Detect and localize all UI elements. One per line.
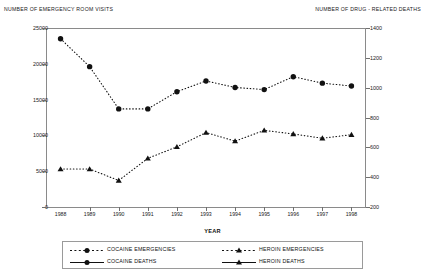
legend-marker-cocaine-emergencies: [69, 246, 105, 255]
legend-label-heroin-emergencies: HEROIN EMERGENCIES: [259, 246, 324, 252]
legend-marker-cocaine-deaths: [69, 258, 105, 267]
data-point-triangle: [174, 144, 180, 149]
data-point-circle: [87, 64, 92, 69]
series-line: [61, 39, 352, 109]
data-point-circle: [58, 36, 63, 41]
data-point-triangle: [58, 166, 64, 171]
chart-page: NUMBER OF EMERGENCY ROOM VISITS NUMBER O…: [0, 0, 425, 277]
data-point-circle: [320, 80, 325, 85]
data-point-circle: [291, 74, 296, 79]
data-point-circle: [349, 83, 354, 88]
chart-plot-area: [0, 0, 425, 277]
legend-marker-heroin-emergencies: [221, 246, 257, 255]
data-point-triangle: [203, 130, 209, 135]
series-heroin-emergencies: [58, 127, 355, 182]
legend-label-heroin-deaths: HEROIN DEATHS: [259, 258, 305, 264]
data-point-triangle: [348, 132, 354, 137]
series-line: [61, 130, 352, 180]
legend-row-emergencies: COCAINE EMERGENCIES HEROIN EMERGENCIES: [63, 246, 362, 257]
legend-label-cocaine-deaths: COCAINE DEATHS: [107, 258, 157, 264]
legend-marker-heroin-deaths: [221, 258, 257, 267]
x-axis-title: YEAR: [0, 228, 425, 234]
chart-legend: COCAINE EMERGENCIES HEROIN EMERGENCIES C…: [62, 241, 363, 269]
data-point-circle: [232, 85, 237, 90]
legend-row-deaths: COCAINE DEATHS HEROIN DEATHS: [63, 258, 362, 269]
legend-label-cocaine-emergencies: COCAINE EMERGENCIES: [107, 246, 176, 252]
data-point-triangle: [261, 127, 267, 132]
data-point-triangle: [87, 166, 93, 171]
data-point-circle: [174, 89, 179, 94]
series-cocaine-emergencies: [58, 36, 354, 112]
data-point-circle: [145, 106, 150, 111]
data-point-circle: [203, 78, 208, 83]
data-point-circle: [116, 106, 121, 111]
data-point-circle: [261, 87, 266, 92]
